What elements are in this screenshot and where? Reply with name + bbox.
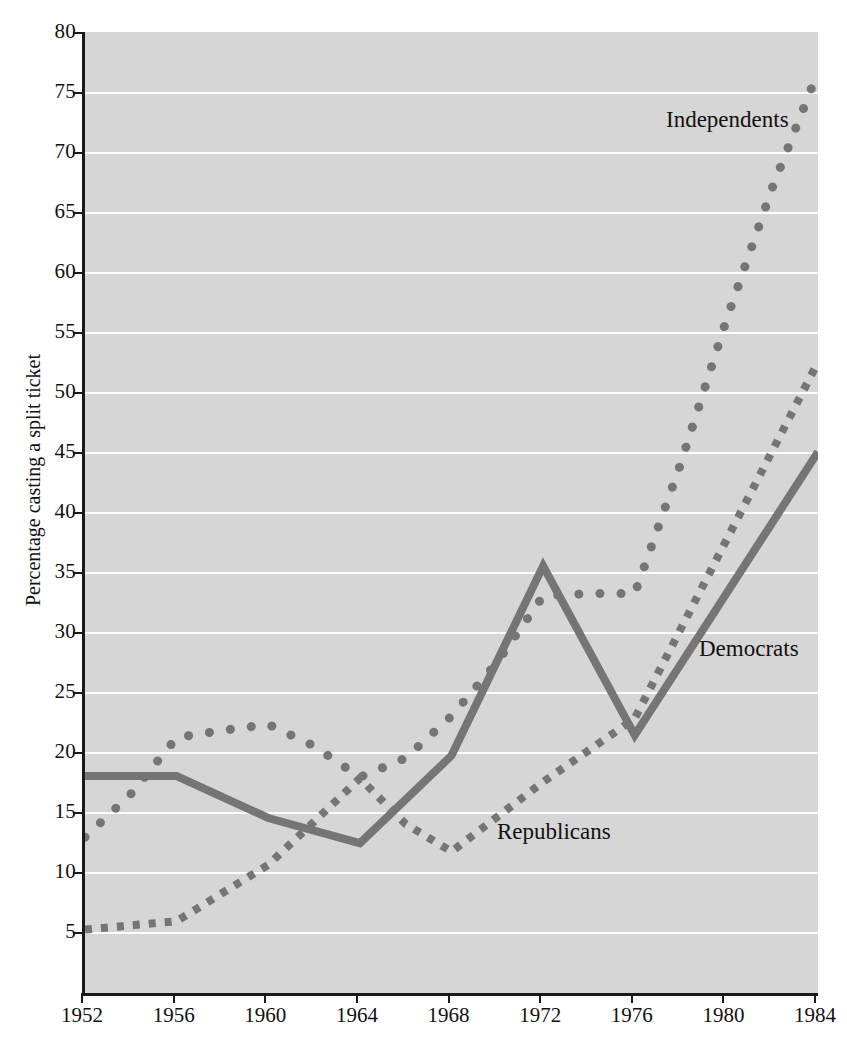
- x-axis-tick-label: 1984: [794, 1003, 836, 1027]
- x-axis-tick: [264, 993, 266, 1003]
- y-axis-tick-label: 80: [55, 21, 76, 42]
- x-axis-tick: [81, 993, 83, 1003]
- x-axis-tick-label: 1952: [61, 1003, 103, 1027]
- y-axis-tick-label: 5: [65, 921, 76, 942]
- y-axis-tick-label: 20: [55, 741, 76, 762]
- chart-figure: Percentage casting a split ticket 510152…: [0, 0, 847, 1052]
- y-axis-tick-label: 35: [55, 561, 76, 582]
- series-layer: [85, 32, 818, 993]
- y-axis-tick-label: 65: [55, 201, 76, 222]
- y-axis-tick-label: 55: [55, 321, 76, 342]
- x-axis-tick-label: 1968: [428, 1003, 470, 1027]
- y-axis-tick-label: 45: [55, 441, 76, 462]
- y-axis-tick-label: 10: [55, 861, 76, 882]
- x-axis-tick-label: 1980: [702, 1003, 744, 1027]
- y-axis-tick-label: 15: [55, 801, 76, 822]
- y-axis-tick-label: 40: [55, 501, 76, 522]
- x-axis-tick-label: 1956: [153, 1003, 195, 1027]
- series-label-republicans: Republicans: [497, 820, 611, 843]
- y-axis-tick-label: 30: [55, 621, 76, 642]
- x-axis-tick: [356, 993, 358, 1003]
- x-axis-tick: [173, 993, 175, 1003]
- plot-area: [82, 32, 818, 996]
- x-axis-tick: [814, 993, 816, 1003]
- y-axis-title: Percentage casting a split ticket: [0, 0, 19, 300]
- x-axis-tick-label: 1964: [336, 1003, 378, 1027]
- x-axis-tick: [631, 993, 633, 1003]
- series-line-independents: [85, 72, 818, 838]
- y-axis-title-text: Percentage casting a split ticket: [22, 300, 45, 660]
- x-axis-tick: [448, 993, 450, 1003]
- series-label-democrats: Democrats: [699, 637, 799, 660]
- x-axis-tick-label: 1960: [244, 1003, 286, 1027]
- x-axis-tick: [722, 993, 724, 1003]
- y-axis-tick-label: 75: [55, 81, 76, 102]
- x-axis-tick-label: 1976: [611, 1003, 653, 1027]
- y-axis-tick-label: 70: [55, 141, 76, 162]
- series-label-independents: Independents: [666, 108, 789, 131]
- x-axis-tick-label: 1972: [519, 1003, 561, 1027]
- y-axis-tick-label: 50: [55, 381, 76, 402]
- y-axis-tick-label: 25: [55, 681, 76, 702]
- y-axis-tick-label: 60: [55, 261, 76, 282]
- x-axis-tick: [539, 993, 541, 1003]
